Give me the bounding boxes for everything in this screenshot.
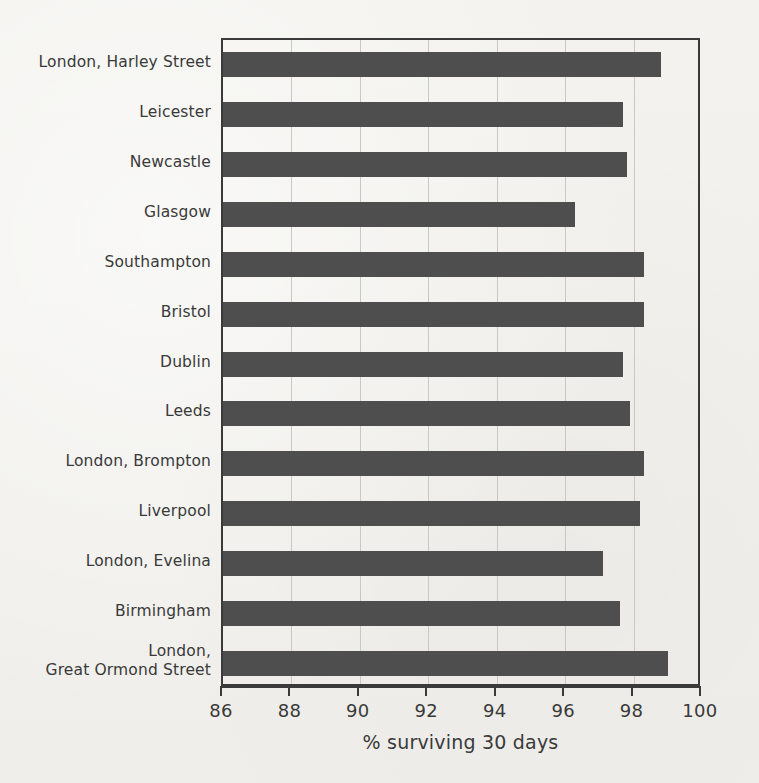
bar-row <box>223 102 702 127</box>
category-label: Liverpool <box>0 502 211 521</box>
bar-row <box>223 252 702 277</box>
x-tick-label: 86 <box>191 700 251 721</box>
category-label-line: London, Evelina <box>86 552 211 570</box>
category-label-line: Leicester <box>139 103 211 121</box>
category-label-line: Liverpool <box>139 502 212 520</box>
category-label: Leicester <box>0 103 211 122</box>
bar <box>223 202 575 227</box>
category-label: Bristol <box>0 303 211 322</box>
bar-row <box>223 451 702 476</box>
x-tick-88 <box>288 686 290 696</box>
category-label: Leeds <box>0 402 211 421</box>
category-label: London, Harley Street <box>0 53 211 72</box>
x-tick-label: 96 <box>533 700 593 721</box>
bar-row <box>223 401 702 426</box>
bar <box>223 651 668 676</box>
bar-row <box>223 501 702 526</box>
category-label-line: London, Harley Street <box>39 53 211 71</box>
bar-row <box>223 302 702 327</box>
category-label-line: London, Brompton <box>65 452 211 470</box>
category-label-line: Newcastle <box>130 153 211 171</box>
x-tick-label: 88 <box>259 700 319 721</box>
category-label: London, Evelina <box>0 552 211 571</box>
x-axis-title: % surviving 30 days <box>221 731 700 753</box>
bar <box>223 551 603 576</box>
bar <box>223 152 627 177</box>
category-label: London,Great Ormond Street <box>0 642 211 680</box>
category-label: London, Brompton <box>0 452 211 471</box>
category-label: Southampton <box>0 253 211 272</box>
category-label: Dublin <box>0 353 211 372</box>
category-label-line: Bristol <box>161 303 211 321</box>
bar <box>223 501 640 526</box>
x-tick-label: 92 <box>396 700 456 721</box>
bar <box>223 451 644 476</box>
category-label-line: Birmingham <box>115 602 211 620</box>
bar-row <box>223 352 702 377</box>
bar-row <box>223 601 702 626</box>
bar <box>223 352 623 377</box>
bar-chart-figure: London, Harley StreetLeicesterNewcastleG… <box>0 0 759 783</box>
bar <box>223 252 644 277</box>
category-label-line: Leeds <box>165 402 211 420</box>
category-label-line: Great Ormond Street <box>0 661 211 680</box>
category-label-line: Glasgow <box>144 203 211 221</box>
category-label: Birmingham <box>0 602 211 621</box>
x-tick-94 <box>494 686 496 696</box>
category-label: Glasgow <box>0 203 211 222</box>
category-label-line: London, <box>0 642 211 661</box>
x-tick-label: 100 <box>670 700 730 721</box>
bar-row <box>223 52 702 77</box>
x-tick-label: 98 <box>602 700 662 721</box>
category-label-line: Dublin <box>160 353 211 371</box>
bar <box>223 601 620 626</box>
bar <box>223 102 623 127</box>
bar-row <box>223 551 702 576</box>
bar <box>223 401 630 426</box>
x-tick-100 <box>699 686 701 696</box>
x-axis-line <box>221 686 700 688</box>
bar <box>223 52 661 77</box>
x-tick-86 <box>220 686 222 696</box>
bar-row <box>223 152 702 177</box>
plot-area <box>221 38 700 686</box>
x-tick-92 <box>425 686 427 696</box>
x-tick-98 <box>631 686 633 696</box>
bar-row <box>223 651 702 676</box>
category-label-line: Southampton <box>104 253 211 271</box>
category-label: Newcastle <box>0 153 211 172</box>
x-tick-96 <box>562 686 564 696</box>
x-tick-label: 90 <box>328 700 388 721</box>
bar <box>223 302 644 327</box>
bar-row <box>223 202 702 227</box>
x-tick-label: 94 <box>465 700 525 721</box>
category-axis-labels: London, Harley StreetLeicesterNewcastleG… <box>0 38 211 686</box>
x-tick-90 <box>357 686 359 696</box>
